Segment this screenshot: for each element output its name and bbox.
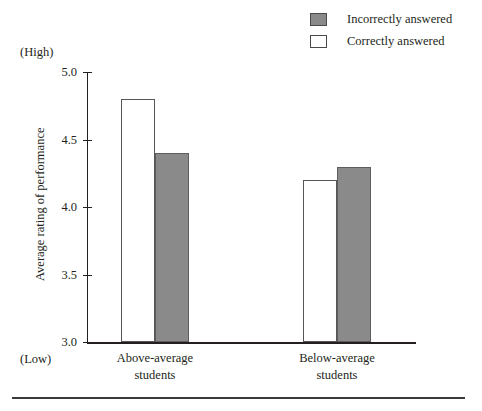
legend-item-correctly-answered: Correctly answered <box>310 30 480 52</box>
chart-legend: Incorrectly answered Correctly answered <box>310 8 480 52</box>
plot-area: 5.0 4.5 4.0 3.5 3.0 Above-average studen… <box>87 72 416 342</box>
legend-label-correctly-answered: Correctly answered <box>347 35 445 48</box>
y-tick-1: 4.5 <box>83 140 92 141</box>
y-tick-label-3: 3.5 <box>61 268 77 281</box>
figure-bottom-rule <box>12 397 465 399</box>
x-axis-line <box>87 342 416 344</box>
y-tick-4: 3.0 <box>83 342 92 343</box>
bar-below-average-correctly-answered <box>303 180 337 342</box>
bar-above-average-incorrectly-answered <box>155 153 189 342</box>
y-axis-title: Average rating of performance <box>34 98 47 310</box>
y-tick-0: 5.0 <box>83 72 92 73</box>
y-tick-3: 3.5 <box>83 275 92 276</box>
legend-item-incorrectly-answered: Incorrectly answered <box>310 8 480 30</box>
y-tick-label-0: 5.0 <box>61 66 77 79</box>
y-axis-low-note: (Low) <box>20 353 51 366</box>
x-category-line-2: students <box>257 367 417 384</box>
legend-label-incorrectly-answered: Incorrectly answered <box>347 13 452 26</box>
y-tick-label-4: 3.0 <box>61 336 77 349</box>
y-axis-high-note: (High) <box>20 46 53 59</box>
legend-swatch-filled-icon <box>310 13 327 26</box>
y-tick-label-1: 4.5 <box>61 133 77 146</box>
bar-above-average-correctly-answered <box>121 99 155 342</box>
x-category-label-below-average: Below-average students <box>257 350 417 384</box>
bar-chart-figure: Incorrectly answered Correctly answered … <box>0 0 482 411</box>
y-tick-2: 4.0 <box>83 207 92 208</box>
legend-swatch-hollow-icon <box>310 35 327 48</box>
y-tick-label-2: 4.0 <box>61 201 77 214</box>
x-category-line-2: students <box>75 367 235 384</box>
x-category-line-1: Below-average <box>257 350 417 367</box>
x-category-label-above-average: Above-average students <box>75 350 235 384</box>
x-category-line-1: Above-average <box>75 350 235 367</box>
bar-below-average-incorrectly-answered <box>337 167 371 343</box>
